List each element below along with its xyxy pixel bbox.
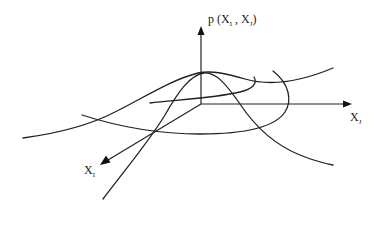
- xj-axis-label: XJ: [350, 110, 361, 125]
- vertical-axis-label: p (XI , XJ): [208, 12, 256, 27]
- xj-axis: [201, 101, 352, 108]
- xi-axis: [100, 104, 201, 165]
- label-text: p (X: [208, 12, 230, 26]
- label-text: ): [252, 12, 256, 26]
- label-subscript: I: [230, 20, 232, 28]
- label-text: , X: [232, 12, 250, 26]
- label-text: X: [350, 110, 359, 124]
- label-subscript: J: [359, 118, 362, 126]
- vertical-axis: [198, 26, 205, 104]
- contour-ellipse-front: [82, 71, 289, 134]
- label-subscript: I: [93, 171, 95, 179]
- label-text: X: [84, 163, 93, 177]
- curve-xj-section: [23, 68, 333, 138]
- arrow-right-icon: [343, 101, 352, 108]
- xi-axis-label: XI: [84, 163, 95, 178]
- contour-ellipse-back: [150, 77, 255, 103]
- curve-xi-section: [103, 73, 333, 199]
- arrow-up-icon: [198, 26, 205, 35]
- probability-density-diagram: [0, 0, 384, 225]
- arrow-down-left-icon: [100, 156, 111, 166]
